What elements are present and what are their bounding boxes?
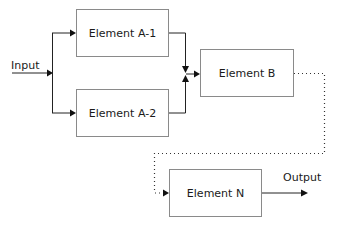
node-label-n: Element N <box>187 187 244 200</box>
arrowhead-a2-icon <box>70 110 76 117</box>
output-label: Output <box>283 171 322 184</box>
merge-a2-line <box>169 81 186 113</box>
node-element-n: Element N <box>170 170 262 217</box>
output-arrowhead-icon <box>301 190 308 197</box>
merge-a1-line <box>169 33 186 67</box>
input-label: Input <box>11 59 40 72</box>
node-label-a1: Element A-1 <box>89 27 156 40</box>
arrowhead-b-icon <box>194 71 200 78</box>
arrowhead-a1-icon <box>70 30 76 37</box>
node-element-b: Element B <box>201 50 294 97</box>
node-element-a2: Element A-2 <box>77 90 169 137</box>
merge-up-arrowhead-icon <box>182 75 189 82</box>
node-label-a2: Element A-2 <box>89 107 156 120</box>
merge-down-arrowhead-icon <box>182 66 189 73</box>
node-label-b: Element B <box>219 67 276 80</box>
arrowhead-n-icon <box>163 190 169 197</box>
block-diagram: Input Element A-1 Element A-2 Element B … <box>0 0 340 229</box>
node-element-a1: Element A-1 <box>77 10 169 57</box>
